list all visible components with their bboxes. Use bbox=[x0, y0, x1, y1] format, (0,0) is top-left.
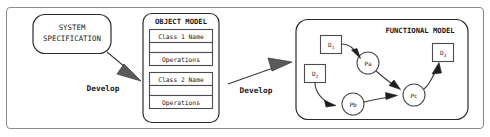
object-model-title: OBJECT MODEL bbox=[155, 17, 208, 26]
system-specification-line1: SYSTEM bbox=[59, 23, 86, 32]
class-box-1: Class 1 Name Operations bbox=[150, 30, 213, 66]
data-store-d1: D1 bbox=[321, 36, 342, 54]
process-pa: Pa bbox=[357, 52, 379, 74]
class-2-attributes-cell bbox=[150, 86, 213, 96]
class-2-name-label: Class 2 Name bbox=[158, 76, 204, 83]
process-diagram: SYSTEM SPECIFICATION Develop OBJECT MODE… bbox=[0, 0, 490, 137]
system-specification-node: SYSTEM SPECIFICATION bbox=[33, 15, 111, 54]
class-1-name-label: Class 1 Name bbox=[158, 33, 204, 40]
class-box-2: Class 2 Name Operations bbox=[150, 73, 213, 109]
class-2-operations-label: Operations bbox=[162, 99, 200, 107]
functional-model-title: FUNCTIONAL MODEL bbox=[385, 26, 455, 35]
data-store-d2-subscript: 2 bbox=[316, 74, 319, 79]
class-1-operations-label: Operations bbox=[162, 56, 200, 64]
data-store-d3-subscript: 3 bbox=[444, 53, 447, 58]
process-pa-label: Pa bbox=[364, 60, 372, 67]
object-model-group: OBJECT MODEL Class 1 Name Operations Cla… bbox=[143, 14, 219, 123]
develop-label-2: Develop bbox=[240, 86, 273, 95]
system-specification-line2: SPECIFICATION bbox=[43, 34, 101, 43]
data-store-d1-subscript: 1 bbox=[332, 45, 335, 50]
diagram-canvas: SYSTEM SPECIFICATION Develop OBJECT MODE… bbox=[0, 0, 490, 137]
class-1-attributes-cell bbox=[150, 43, 213, 53]
process-pb-label: Pb bbox=[349, 101, 357, 108]
process-pc: Pc bbox=[403, 84, 425, 106]
data-store-d3: D3 bbox=[433, 44, 454, 62]
data-store-d2: D2 bbox=[305, 65, 326, 83]
develop-label-1: Develop bbox=[87, 84, 120, 93]
process-pc-label: Pc bbox=[410, 92, 418, 99]
process-pb: Pb bbox=[342, 93, 364, 115]
functional-model-group: FUNCTIONAL MODEL D1 D2 D3 Pa bbox=[296, 20, 468, 120]
